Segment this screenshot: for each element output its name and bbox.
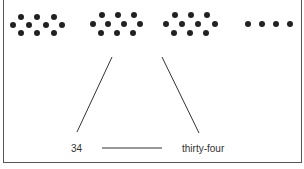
dot (34, 14, 40, 20)
dot (34, 30, 40, 36)
dot (121, 21, 127, 27)
dot (195, 21, 201, 27)
dot (51, 30, 57, 36)
dot (188, 12, 194, 18)
dot (137, 21, 143, 27)
dot-group-4 (245, 21, 293, 27)
dot (179, 21, 185, 27)
word-label: thirty-four (182, 143, 224, 155)
dot (90, 21, 96, 27)
dot (98, 30, 104, 36)
dot (99, 12, 105, 18)
dot (212, 21, 218, 27)
connector-lines (77, 57, 199, 133)
dot (204, 12, 210, 18)
dot-groups (10, 12, 293, 36)
dot-group-2 (90, 12, 143, 36)
dot (187, 30, 193, 36)
dot (203, 30, 209, 36)
numeral-label: 34 (71, 143, 82, 155)
diagram-canvas (0, 0, 304, 169)
dot (131, 12, 137, 18)
dot (115, 12, 121, 18)
dot (10, 22, 16, 28)
dot (245, 21, 251, 27)
dot (43, 22, 49, 28)
dot (130, 30, 136, 36)
dot (259, 21, 265, 27)
dot-group-3 (163, 12, 218, 36)
dot (287, 21, 293, 27)
dot (171, 30, 177, 36)
dot (26, 22, 32, 28)
dot-group-1 (10, 14, 65, 36)
dot (51, 14, 57, 20)
dot (18, 30, 24, 36)
dot (172, 12, 178, 18)
dot (18, 14, 24, 20)
dot (59, 22, 65, 28)
dot (105, 21, 111, 27)
dot (114, 30, 120, 36)
dot (273, 21, 279, 27)
line-to-numeral (77, 57, 112, 132)
line-to-word (162, 57, 199, 133)
dot (163, 21, 169, 27)
